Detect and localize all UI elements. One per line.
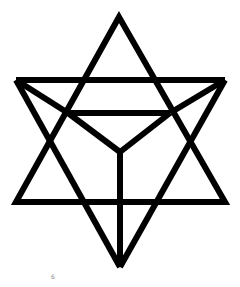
footer-mark: 6	[51, 274, 55, 280]
inner-right-diagonal	[120, 113, 170, 152]
merkaba-diagram	[0, 0, 240, 287]
inner-left-diagonal	[68, 113, 120, 152]
